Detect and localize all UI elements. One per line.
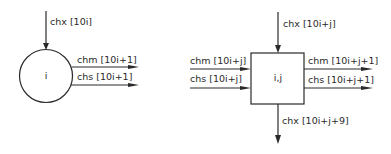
arrow-head-icon	[275, 135, 281, 144]
arrow-head-icon	[128, 83, 139, 87]
chx-output-label: chx [10i+j+9]	[282, 115, 349, 126]
square-node-group: chx [10i+j] i,j chm [10i+j] chs [10i+j] …	[190, 12, 378, 144]
chx-input-label: chx [10i]	[50, 16, 92, 27]
square-node-label: i,j	[274, 72, 282, 83]
arrow-head-icon	[361, 86, 373, 90]
arrow-head-icon	[275, 45, 281, 53]
chm-output-label: chm [10i+1]	[77, 54, 137, 65]
circle-node-group: chx [10i] i chm [10i+1] chs [10i+1]	[20, 11, 140, 103]
chm-input-label: chm [10i+j]	[190, 55, 246, 66]
chs-output-label: chs [10i+1]	[77, 71, 132, 82]
circle-node-label: i	[45, 70, 48, 81]
chx-input-label: chx [10i+j]	[283, 18, 336, 29]
arrow-head-icon	[128, 65, 139, 69]
chm-output-label: chm [10i+j+1]	[308, 55, 378, 66]
arrow-head-icon	[361, 67, 373, 71]
chs-output-label: chs [10i+j+1]	[308, 74, 374, 85]
process-diagram: chx [10i] i chm [10i+1] chs [10i+1] chx …	[0, 0, 391, 154]
chs-input-label: chs [10i+j]	[190, 73, 242, 84]
arrow-head-icon	[240, 86, 251, 90]
arrow-head-icon	[240, 67, 251, 71]
